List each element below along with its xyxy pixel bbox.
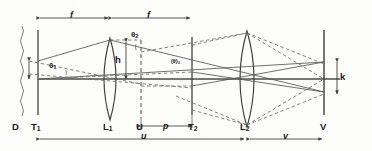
- dimension-label-u: u: [141, 132, 147, 141]
- dimension-label-f-left: f: [70, 11, 73, 20]
- component-label-L1: L1: [103, 122, 113, 133]
- optics-ray-diagram: f f θ1 θ2 (θ)3 h k D T1 L1 U T2 L2 V p u…: [0, 0, 372, 151]
- ray-solid-bundle: [38, 40, 324, 92]
- component-label-L2: L2: [240, 122, 250, 133]
- angle-label-theta-1: θ1: [49, 62, 57, 71]
- measure-label-h: h: [115, 55, 121, 65]
- component-label-D: D: [12, 122, 19, 132]
- component-label-T2: T2: [188, 122, 198, 133]
- dimension-label-v: v: [283, 132, 288, 141]
- component-label-V: V: [320, 122, 326, 132]
- angle-label-theta-2: θ2: [131, 31, 139, 40]
- diagram-canvas: [0, 0, 372, 151]
- dimension-label-f-right: f: [147, 11, 150, 20]
- measure-label-k: k: [340, 72, 345, 82]
- dimension-label-p: p: [163, 122, 169, 131]
- component-label-T1: T1: [31, 122, 41, 133]
- source-wavy-line-D: [21, 26, 24, 116]
- angle-label-theta-3: (θ)3: [171, 59, 180, 65]
